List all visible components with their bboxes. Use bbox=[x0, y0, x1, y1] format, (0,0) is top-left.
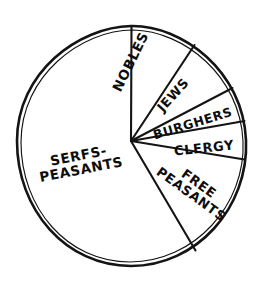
pie-chart: NOBLES JEWS BURGHERS CLERGY FREE PEASANT… bbox=[0, 0, 271, 284]
